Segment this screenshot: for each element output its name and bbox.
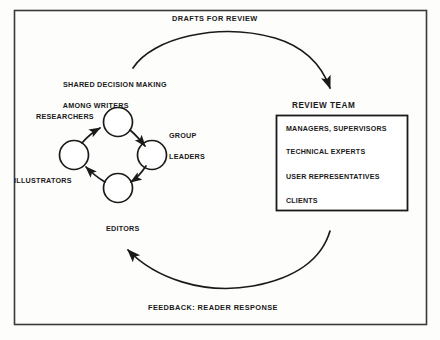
node-label-group-leaders-line1: GROUP bbox=[169, 131, 197, 140]
figure-canvas: DRAFTS FOR REVIEW SHARED DECISION MAKING… bbox=[0, 0, 440, 340]
feedback-label: FEEDBACK: READER RESPONSE bbox=[148, 303, 278, 314]
shared-decision-heading-line1: SHARED DECISION MAKING bbox=[63, 80, 167, 89]
node-editors bbox=[104, 174, 133, 203]
node-illustrators bbox=[60, 141, 89, 170]
review-team-member: USER REPRESENTATIVES bbox=[286, 172, 380, 182]
arrow-group-leaders-to-editors bbox=[131, 166, 146, 182]
feedback-flow-arrow bbox=[128, 231, 330, 288]
node-label-editors: EDITORS bbox=[106, 224, 140, 234]
review-team-member: MANAGERS, SUPERVISORS bbox=[286, 124, 387, 134]
node-label-researchers: RESEARCHERS bbox=[36, 112, 94, 122]
arrow-editors-to-illustrators bbox=[86, 167, 105, 182]
shared-decision-heading-line2: AMONG WRITERS bbox=[63, 101, 129, 110]
drafts-for-review-label: DRAFTS FOR REVIEW bbox=[172, 14, 258, 25]
arrow-researchers-to-group-leaders bbox=[130, 130, 145, 146]
arrow-illustrators-to-researchers bbox=[82, 128, 100, 143]
review-team-heading: REVIEW TEAM bbox=[292, 100, 355, 112]
review-team-member: TECHNICAL EXPERTS bbox=[286, 147, 365, 157]
diagram-graphic bbox=[0, 0, 440, 340]
node-label-group-leaders: GROUP LEADERS bbox=[160, 121, 205, 173]
node-label-illustrators: ILLUSTRATORS bbox=[14, 176, 72, 186]
node-label-group-leaders-line2: LEADERS bbox=[169, 152, 205, 161]
review-team-member: CLIENTS bbox=[286, 196, 318, 206]
